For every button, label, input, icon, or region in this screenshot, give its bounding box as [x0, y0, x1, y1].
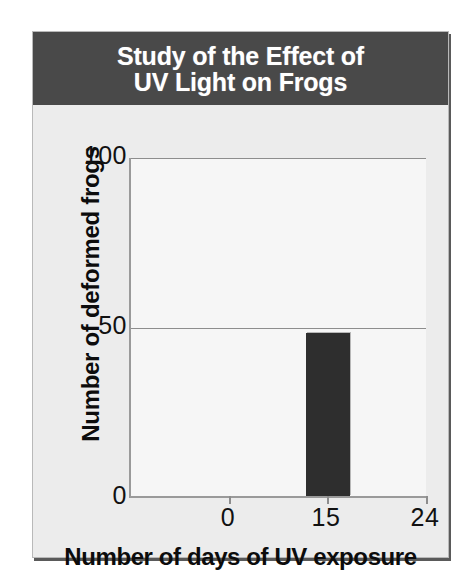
x-tick-label-15: 15 [291, 503, 361, 532]
chart-body: Number of deformed frogs 100 50 0 0 15 2… [33, 105, 448, 557]
y-tick-label-100: 100 [69, 141, 127, 170]
x-tick-label-0: 0 [193, 503, 263, 532]
y-axis-tick-labels: 100 50 0 [69, 105, 127, 557]
chart-figure: Study of the Effect of UV Light on Frogs… [32, 31, 449, 558]
y-tick-label-0: 0 [69, 481, 127, 510]
chart-title-band: Study of the Effect of UV Light on Frogs [33, 32, 448, 105]
y-tick-label-50: 50 [69, 311, 127, 340]
x-tick-label-24: 24 [390, 503, 460, 532]
bar-24-days [306, 333, 350, 496]
gridline-50 [131, 328, 426, 329]
chart-title: Study of the Effect of UV Light on Frogs [117, 43, 364, 95]
x-axis-title: Number of days of UV exposure [33, 543, 448, 571]
gridline-100 [131, 158, 426, 159]
plot-area [129, 158, 426, 498]
